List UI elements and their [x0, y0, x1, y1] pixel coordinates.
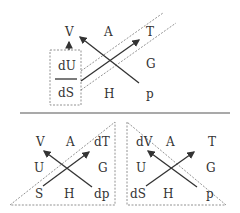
label-A: A: [103, 25, 113, 39]
label-p: p: [146, 87, 154, 101]
label-G: G: [98, 161, 108, 175]
label-V: V: [64, 25, 74, 39]
label-H: H: [163, 187, 173, 201]
bottom-right-panel: dV A T U G dS H p: [127, 122, 226, 205]
arrow-dS-to-T: [146, 152, 194, 186]
label-V: V: [35, 135, 45, 149]
label-S: S: [35, 187, 43, 201]
label-U: U: [34, 161, 44, 175]
label-p: p: [206, 187, 214, 201]
label-G: G: [146, 57, 156, 71]
label-dT: dT: [94, 135, 110, 149]
label-H: H: [64, 187, 74, 201]
label-T: T: [146, 25, 154, 39]
label-G: G: [206, 161, 216, 175]
guide-line-lower: [81, 23, 176, 90]
arrow-dp-to-V: [44, 151, 92, 187]
label-A: A: [165, 135, 175, 149]
label-A: A: [65, 135, 75, 149]
label-dS: dS: [58, 86, 74, 100]
arrow-p-to-dV: [148, 151, 197, 187]
bottom-left-panel: V A dT U G S H dp: [10, 122, 115, 205]
label-dS: dS: [130, 187, 146, 201]
label-dV: dV: [136, 135, 153, 149]
thermodynamic-square-diagram: dU dS V A T G H p V A dT U G S H dp dV: [0, 0, 240, 213]
label-T: T: [208, 135, 216, 149]
arrow-S-to-dT: [43, 152, 89, 186]
label-U: U: [136, 161, 146, 175]
label-dU: dU: [58, 59, 76, 73]
top-panel: dU dS V A T G H p: [50, 13, 176, 105]
label-dp: dp: [94, 187, 110, 201]
label-H: H: [104, 87, 114, 101]
